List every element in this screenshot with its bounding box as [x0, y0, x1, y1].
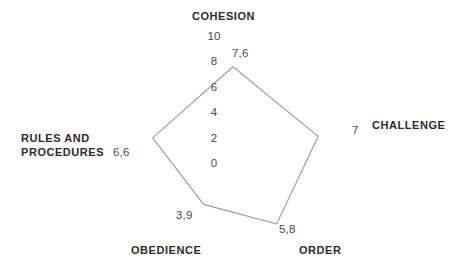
data-value-rules-and-procedures: 6,6	[113, 146, 130, 158]
data-value-order: 5,8	[279, 223, 296, 235]
axis-label-order: ORDER	[299, 243, 341, 257]
radial-tick-0: 0	[203, 157, 225, 169]
axis-label-rules-and-procedures: RULES AND PROCEDURES	[21, 131, 104, 159]
axis-label-cohesion: COHESION	[192, 9, 255, 23]
radial-tick-8: 8	[203, 55, 225, 67]
axis-label-obedience: OBEDIENCE	[131, 243, 201, 257]
radar-series-polygon	[153, 67, 319, 224]
data-value-obedience: 3,9	[176, 209, 193, 221]
radial-tick-10: 10	[200, 30, 228, 42]
data-value-challenge: 7	[352, 124, 359, 136]
data-value-cohesion: 7,6	[232, 47, 249, 59]
radial-tick-2: 2	[203, 132, 225, 144]
radial-tick-4: 4	[203, 106, 225, 118]
radar-chart-figure: COHESION CHALLENGE ORDER OBEDIENCE RULES…	[0, 0, 458, 276]
radial-tick-6: 6	[203, 81, 225, 93]
axis-label-challenge: CHALLENGE	[372, 118, 445, 132]
